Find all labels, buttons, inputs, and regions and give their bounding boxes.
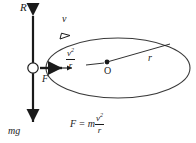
numerator-exponent: 2 [71,47,74,53]
centripetal-acceleration-expression: v2 r [66,47,75,70]
object-circle [28,63,38,73]
physics-diagram: R v mg F O r v2 r F = m v2 r [0,0,196,143]
fraction-v2-over-r: v2 r [66,47,75,70]
equation-numerator: v2 [95,112,104,125]
equation-numerator-exponent: 2 [100,112,103,118]
label-center: O [104,66,111,76]
fraction-denominator: r [66,60,75,70]
equation-denominator: r [95,125,104,135]
label-radius: r [148,53,152,63]
radius-leader-line [86,63,104,65]
label-force: F [42,74,48,84]
equation-lhs: F [70,118,76,129]
equation-fraction: v2 r [95,112,104,135]
label-weight: mg [8,126,20,136]
label-velocity: v [62,14,66,24]
equation-mass: m [88,118,95,129]
centripetal-force-equation: F = m v2 r [70,112,104,135]
velocity-arrowhead [60,33,70,39]
equation-operator: = [79,118,86,129]
label-normal-force: R [20,2,27,13]
radius-line [107,44,170,62]
fraction-numerator: v2 [66,47,75,60]
